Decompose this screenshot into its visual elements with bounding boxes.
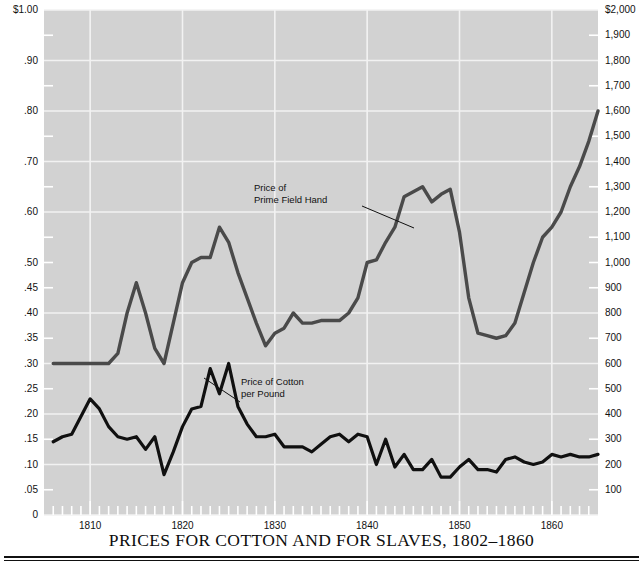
right-axis-tick-label: 1,100	[605, 232, 630, 242]
right-axis-tick-label: 800	[605, 308, 622, 318]
caption-rule-bottom	[4, 560, 639, 561]
right-axis-tick-label: 900	[605, 283, 622, 293]
left-axis-tick-label: .50	[0, 258, 38, 268]
left-axis-tick-label: .10	[0, 460, 38, 470]
plot-area	[44, 10, 598, 515]
right-axis-tick-label: 100	[605, 485, 622, 495]
left-axis-tick-label: .30	[0, 359, 38, 369]
right-axis-tick-label: 300	[605, 434, 622, 444]
right-axis-tick-label: $2,000	[605, 5, 636, 15]
right-axis-tick-label: 1,900	[605, 30, 630, 40]
right-axis-tick-label: 1,300	[605, 182, 630, 192]
left-axis-tick-label: .80	[0, 106, 38, 116]
left-axis-tick-label: .90	[0, 56, 38, 66]
right-axis-tick-label: 1,000	[605, 258, 630, 268]
caption-rule-top	[4, 556, 639, 558]
annotation-leaders	[44, 10, 598, 515]
chart-caption: PRICES FOR COTTON AND FOR SLAVES, 1802–1…	[0, 530, 643, 551]
right-axis-tick-label: 400	[605, 409, 622, 419]
right-axis-tick-label: 1,700	[605, 81, 630, 91]
right-axis-tick-label: 200	[605, 460, 622, 470]
left-axis-tick-label: .45	[0, 283, 38, 293]
left-axis-tick-label: $1.00	[0, 5, 38, 15]
left-axis-tick-label: .60	[0, 207, 38, 217]
annotation-prime-field-hand: Price of Prime Field Hand	[254, 182, 327, 206]
left-axis-tick-label: .20	[0, 409, 38, 419]
right-axis-tick-label: 500	[605, 384, 622, 394]
right-axis-tick-label: 1,400	[605, 157, 630, 167]
chart-root: $1.00.90.80.70.60.50.45.40.35.30.25.20.1…	[0, 0, 643, 565]
left-axis-tick-label: .70	[0, 157, 38, 167]
left-axis-tick-label: .40	[0, 308, 38, 318]
annotation-cotton-price: Price of Cotton per Pound	[241, 376, 304, 400]
right-axis-tick-label: 1,200	[605, 207, 630, 217]
right-axis-tick-label: 600	[605, 359, 622, 369]
left-axis-tick-label: 0	[0, 510, 38, 520]
left-axis-tick-label: .25	[0, 384, 38, 394]
left-axis-tick-label: .35	[0, 333, 38, 343]
right-axis-tick-label: 1,500	[605, 131, 630, 141]
left-axis-tick-label: .15	[0, 434, 38, 444]
right-axis-tick-label: 1,800	[605, 56, 630, 66]
left-axis-tick-label: .05	[0, 485, 38, 495]
right-axis-tick-label: 1,600	[605, 106, 630, 116]
right-axis-tick-label: 700	[605, 333, 622, 343]
